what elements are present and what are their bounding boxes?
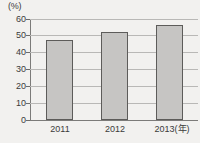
x-axis-labels: 2011 2012 2013(年) <box>30 124 198 138</box>
y-axis-labels: 60 50 40 30 20 10 0 <box>0 19 26 120</box>
x-tick-label-2013: 2013(年) <box>154 124 189 134</box>
y-tick-label-10: 10 <box>16 99 26 108</box>
plot-area <box>30 19 198 120</box>
y-tick-label-40: 40 <box>16 48 26 57</box>
bar-2013 <box>156 25 183 120</box>
gridline-60 <box>30 19 198 20</box>
y-tick-label-30: 30 <box>16 65 26 74</box>
x-tick-label-2011: 2011 <box>50 124 69 134</box>
y-tick-label-50: 50 <box>16 31 26 40</box>
bar-2011 <box>46 40 73 120</box>
y-tick-label-60: 60 <box>16 15 26 24</box>
x-tick-label-2012: 2012 <box>105 124 125 134</box>
bar-2012 <box>101 32 128 120</box>
y-tick-label-20: 20 <box>16 82 26 91</box>
bar-chart: (%) 60 50 40 30 20 10 0 2011 2012 2013(年… <box>0 0 200 143</box>
y-axis-unit-label: (%) <box>8 1 21 11</box>
gridline-baseline-0 <box>30 120 198 121</box>
